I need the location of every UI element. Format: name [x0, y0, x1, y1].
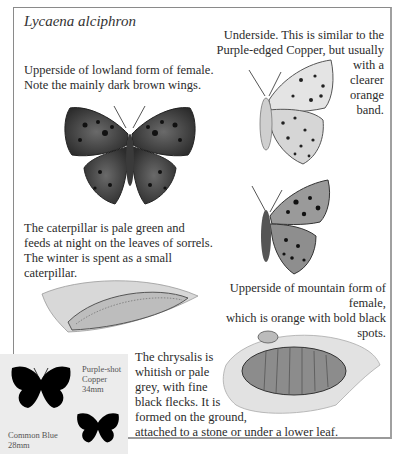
caption-line: Underside. This is similar to the: [200, 28, 384, 43]
species-name: Purple-shot: [82, 364, 121, 374]
species-size: 28mm: [8, 440, 58, 450]
species-size: 34mm: [82, 384, 121, 394]
caption-line: formed on the ground,: [135, 410, 395, 425]
species-name: Copper: [82, 374, 121, 384]
caption-line: Upperside of mountain form of female,: [200, 281, 386, 311]
butterfly-underside-illustration: [243, 58, 338, 168]
butterfly-silhouette-icon: [10, 362, 72, 410]
caption-line: whitish or pale: [135, 365, 395, 380]
silhouette-label-common-blue: Common Blue 28mm: [8, 430, 58, 450]
caption-line: attached to a stone or under a lower lea…: [135, 425, 395, 440]
caption-line: black flecks. It is: [135, 395, 395, 410]
caption-line: The chrysalis is: [135, 350, 395, 365]
butterfly-upperside-side-illustration: [248, 178, 333, 278]
species-title: Lycaena alciphron: [24, 13, 136, 30]
caption-line: grey, with fine: [135, 380, 395, 395]
silhouette-label-purple-shot: Purple-shot Copper 34mm: [82, 364, 121, 394]
caterpillar-illustration: [38, 272, 206, 338]
caption-chrysalis: The chrysalis is whitish or pale grey, w…: [135, 350, 395, 440]
species-name: Common Blue: [8, 430, 58, 440]
caption-line: Purple-edged Copper, but usually: [200, 43, 384, 58]
caption-lowland-female: Upperside of lowland form of female. Not…: [24, 63, 224, 93]
butterfly-upperside-dark-illustration: [60, 100, 200, 212]
size-comparison-inset: Purple-shot Copper 34mm Common Blue 28mm: [0, 354, 128, 454]
butterfly-silhouette-icon: [76, 410, 120, 444]
